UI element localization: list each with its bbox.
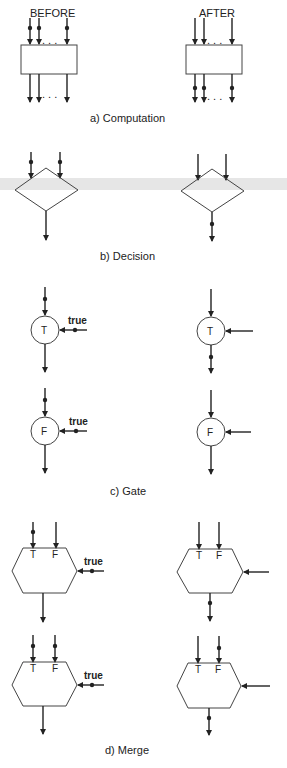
merge-f-port: F [52,549,58,560]
token-dot [58,160,62,164]
true-control-label: true [69,416,88,427]
gate-f-after [197,390,251,474]
token-dot [31,530,35,534]
token-dot [90,683,94,687]
ellipsis: . . . [42,34,57,46]
true-control-label: true [84,556,103,567]
token-dot [37,26,41,30]
gate-t-symbol: T [207,326,213,337]
merge-t-port: T [30,663,36,674]
token-dot [73,328,77,332]
gate-t-symbol: T [41,325,47,336]
token-dot [193,86,197,90]
token-dot [74,429,78,433]
gate-f-before [31,388,87,473]
token-dot [209,355,213,359]
token-dot [53,644,57,648]
token-dot [28,26,32,30]
merge-f-port: F [215,664,221,675]
merge-f-port: F [216,550,222,561]
ellipsis: . . . [207,34,222,46]
token-dot [65,26,69,30]
merge-2-after [177,636,270,735]
merge-t-port: T [195,664,201,675]
ellipsis: . . . [207,90,222,102]
token-dot [207,716,211,720]
tokens [28,26,234,720]
token-dot [217,646,221,650]
decision-before [15,152,78,240]
before-header: BEFORE [30,7,75,19]
true-control-label: true [68,315,87,326]
caption-merge: d) Merge [105,744,149,756]
caption-decision: b) Decision [100,250,155,262]
token-dot [208,601,212,605]
token-dot [29,160,33,164]
caption-gate: c) Gate [110,485,146,497]
token-dot [43,297,47,301]
merge-f-port: F [52,663,58,674]
gate-f-symbol: F [207,427,213,438]
token-dot [90,569,94,573]
ellipsis: . . . [42,88,57,100]
caption-computation: a) Computation [90,112,165,124]
gate-t-after [197,289,253,373]
token-dot [43,398,47,402]
merge-1-after [177,522,269,621]
token-dot [230,86,234,90]
merge-t-port: T [196,550,202,561]
token-dot [210,222,214,226]
gate-f-symbol: F [41,426,47,437]
token-dot [202,86,206,90]
after-header: AFTER [199,7,235,19]
token-dot [31,644,35,648]
dataflow-firing-rules-diagram: . . . . . . . . . . . . BEFORE AFTER T T… [0,0,287,768]
true-control-label: true [84,670,103,681]
merge-t-port: T [30,549,36,560]
gate-t-before [31,287,87,372]
decision-after [181,154,244,241]
